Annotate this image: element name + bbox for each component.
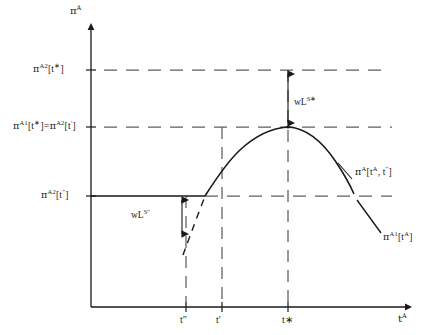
x-tick-label-t-prime: t′ xyxy=(216,314,221,325)
x-tick-label-t-dprime: t″ xyxy=(180,314,187,325)
curve-label-pi-A1-tA: πA1[tA] xyxy=(383,231,413,243)
y-axis-title: πA xyxy=(70,4,81,16)
horizontal-dashed-lines xyxy=(104,70,392,196)
curve-1-comma: , t xyxy=(378,167,386,177)
pi-sup-mid-1: A1 xyxy=(20,119,28,126)
y-tick-label-pi-A2-tstar: πA2[t∗] xyxy=(33,63,64,75)
profit-curve xyxy=(205,127,354,196)
y-axis-title-sup: A xyxy=(77,4,82,12)
measure-label-wl-s-star: wLS∗ xyxy=(294,95,316,107)
curve-1-close: ] xyxy=(389,167,392,177)
x-axis-arrowhead xyxy=(405,304,412,311)
y-axis-title-pi: π xyxy=(70,5,77,16)
y-axis-arrowhead xyxy=(88,23,95,30)
wl-dprime-glyph: ″ xyxy=(147,208,150,215)
economics-figure: πA tA πA2[t∗] πA1[t∗]=πA2[t′] πA2[t″] t″… xyxy=(0,0,436,335)
pi-sup-curve-2: A1 xyxy=(390,230,398,237)
measure-label-wl-s-dprime: wLS″ xyxy=(131,208,150,220)
wl-star-glyph: ∗ xyxy=(310,95,316,102)
y-tick-label-pi-A1-tstar-eq: πA1[t∗]=πA2[t′] xyxy=(13,120,76,132)
curve-label-pi-A-tA-tdprime: πA[tA, t″] xyxy=(355,166,392,178)
pi-sup-mid-2: A2 xyxy=(56,119,64,126)
x-tick-label-t-star: t∗ xyxy=(282,314,293,325)
bracket-close-lower: ] xyxy=(65,190,68,200)
bracket-close-mid-2: ] xyxy=(73,121,76,131)
curve-peak-marker xyxy=(286,125,289,128)
curve-2-close: ] xyxy=(409,232,412,242)
vertical-dashed-lines xyxy=(186,70,288,305)
x-axis-title-sup: A xyxy=(402,312,407,320)
bracket-close-upper: ] xyxy=(61,64,64,74)
pi-sup-lower: A2 xyxy=(48,188,56,195)
y-tick-label-pi-A2-tdprime: πA2[t″] xyxy=(41,189,69,201)
wl-text-dprime: wL xyxy=(131,210,144,220)
pi-sup-upper: A2 xyxy=(40,62,48,69)
wl-text-star: wL xyxy=(294,97,307,107)
x-axis-title: tA xyxy=(398,312,407,324)
curve-continuation-segment xyxy=(357,200,381,233)
